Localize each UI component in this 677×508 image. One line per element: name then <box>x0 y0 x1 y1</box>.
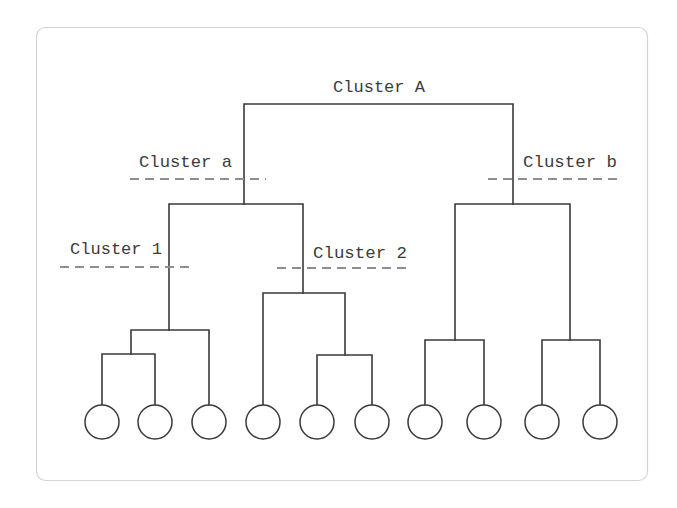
leaf-node-4 <box>246 405 280 439</box>
leaf-node-7 <box>408 405 442 439</box>
leaf-node-6 <box>355 405 389 439</box>
label-cluster-2: Cluster 2 <box>313 244 407 263</box>
leaf-node-8 <box>467 405 501 439</box>
label-cluster-A: Cluster A <box>333 78 426 97</box>
leaf-node-5 <box>300 405 334 439</box>
leaf-node-1 <box>85 405 119 439</box>
leaf-node-10 <box>583 405 617 439</box>
leaf-node-9 <box>525 405 559 439</box>
dendrogram-diagram: Cluster A Cluster a Cluster b Cluster 1 … <box>0 0 677 508</box>
leaf-node-2 <box>138 405 172 439</box>
label-cluster-a: Cluster a <box>139 153 232 172</box>
label-cluster-1: Cluster 1 <box>70 240 162 259</box>
leaf-node-3 <box>192 405 226 439</box>
label-cluster-b: Cluster b <box>523 153 617 172</box>
